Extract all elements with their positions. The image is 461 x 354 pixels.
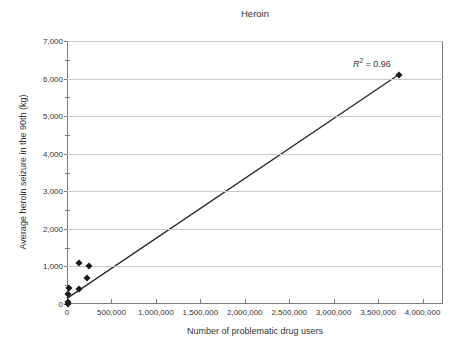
y-axis-minor-tick [65, 135, 70, 136]
y-axis-tick [64, 229, 67, 230]
y-axis-minor-tick [65, 97, 70, 98]
y-axis-minor-tick [65, 173, 70, 174]
r-squared-value: = 0.96 [363, 59, 391, 69]
y-axis-tick [64, 191, 67, 192]
gridline [67, 41, 443, 42]
x-tick-label: 1,000,000 [138, 308, 174, 317]
chart-title: Heroin [241, 8, 269, 19]
y-axis-minor-tick [65, 60, 70, 61]
y-tick-label: 5,000 [43, 112, 63, 121]
y-axis-title: Average heroin seizure in the 90th (kg) [18, 95, 28, 250]
r-squared-label: R2 = 0.96 [353, 57, 391, 69]
x-axis-tick [334, 299, 335, 303]
x-tick-label: 2,000,000 [227, 308, 263, 317]
x-tick-label: 500,000 [97, 308, 126, 317]
plot-area: R2 = 0.96 [67, 41, 443, 304]
x-tick-label: 1,500,000 [183, 308, 219, 317]
gridline [67, 266, 443, 267]
y-axis-minor-tick [65, 248, 70, 249]
x-axis-tick [156, 299, 157, 303]
x-axis-tick [289, 299, 290, 303]
y-axis-tick [64, 116, 67, 117]
y-tick-label: 6,000 [43, 74, 63, 83]
trend-line [67, 41, 443, 304]
y-axis-minor-tick [65, 210, 70, 211]
gridline [67, 79, 443, 80]
y-axis-tick [64, 154, 67, 155]
x-tick-label: 4,000,000 [405, 308, 441, 317]
x-axis-tick [245, 299, 246, 303]
y-tick-label: 7,000 [43, 37, 63, 46]
y-axis-tick [64, 266, 67, 267]
y-tick-label: 4,000 [43, 149, 63, 158]
gridline [67, 116, 443, 117]
y-axis-tick [64, 79, 67, 80]
gridline [67, 154, 443, 155]
x-tick-label: 2,500,000 [271, 308, 307, 317]
x-axis-tick [423, 299, 424, 303]
x-axis-tick [200, 299, 201, 303]
figure: Heroin Average heroin seizure in the 90t… [0, 0, 461, 354]
y-tick-label: 2,000 [43, 224, 63, 233]
x-tick-label: 3,500,000 [360, 308, 396, 317]
gridline [67, 229, 443, 230]
x-axis-tick [111, 299, 112, 303]
x-tick-label: 3,000,000 [316, 308, 352, 317]
y-axis-tick [64, 41, 67, 42]
x-tick-label: 0 [65, 308, 69, 317]
gridline [67, 191, 443, 192]
x-axis-tick [378, 299, 379, 303]
y-tick-label: 0 [59, 300, 63, 309]
x-axis-title: Number of problematic drug users [187, 326, 323, 336]
y-tick-label: 1,000 [43, 262, 63, 271]
y-tick-label: 3,000 [43, 187, 63, 196]
